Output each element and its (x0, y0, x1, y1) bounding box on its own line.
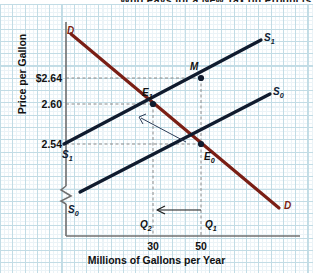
quantity-decrease-arrow (157, 206, 201, 214)
axis-break-mark (61, 186, 71, 204)
x-axis-label: Millions of Gallons per Year (0, 254, 313, 266)
supply-label-s1-left-sub: 1 (69, 154, 73, 163)
supply-label-s0-right-sub: 0 (280, 91, 284, 100)
supply-shift-arrow (139, 114, 186, 142)
supply-label-s1-left: S1 (62, 150, 73, 162)
demand-label-bottom: D (284, 201, 291, 211)
supply-curve-s1 (64, 40, 261, 144)
point-m (198, 75, 204, 81)
supply-label-s1-right: S1 (264, 33, 275, 45)
supply-label-s1-left-text: S (62, 149, 69, 160)
quantity-label-q1-text: Q (205, 219, 213, 230)
y-tick-264: $2.64 (6, 72, 62, 84)
y-tick-254: 2.54 (6, 138, 62, 150)
quantity-label-q1-sub: 1 (213, 224, 217, 233)
supply-label-s1-right-sub: 1 (271, 37, 275, 46)
x-tick-50: 50 (181, 240, 221, 252)
point-label-e1: E1 (142, 88, 153, 100)
supply-label-s0-left-sub: 0 (75, 209, 79, 218)
supply-label-s0-right: S0 (273, 87, 284, 99)
guide-lines (66, 78, 201, 236)
point-label-e0-text: E (204, 151, 211, 162)
point-e1 (150, 101, 156, 107)
supply-label-s1-right-text: S (264, 32, 271, 43)
point-e0 (198, 141, 204, 147)
demand-label-top: D (67, 26, 74, 36)
chart-figure: Who Pays for a New Tax on Products (0, 0, 313, 273)
supply-label-s0-left-text: S (68, 204, 75, 215)
point-label-e0: E0 (204, 152, 215, 164)
quantity-label-q2: Q2 (140, 220, 152, 232)
x-tick-30: 30 (133, 240, 173, 252)
quantity-label-q2-sub: 2 (148, 224, 152, 233)
point-label-e1-sub: 1 (149, 92, 153, 101)
y-tick-260: 2.60 (6, 98, 62, 110)
quantity-label-q2-text: Q (140, 219, 148, 230)
quantity-label-q1: Q1 (205, 220, 217, 232)
supply-label-s0-left: S0 (68, 205, 79, 217)
point-label-e1-text: E (142, 87, 149, 98)
supply-label-s0-right-text: S (273, 86, 280, 97)
point-label-e0-sub: 0 (211, 156, 215, 165)
point-label-m: M (190, 62, 198, 72)
